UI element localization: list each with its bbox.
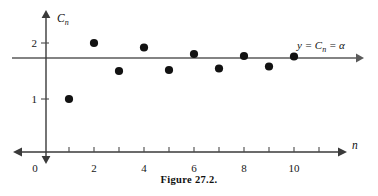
x-tick-label-8: 8: [241, 162, 247, 174]
y-axis-label-sub: n: [65, 18, 69, 27]
x-tick-label-4: 4: [141, 162, 147, 174]
data-point: [115, 67, 123, 75]
x-tick-label-6: 6: [191, 162, 197, 174]
y-axis-label: Cn: [57, 12, 69, 27]
asymptote-label: y = Cn = α: [296, 39, 345, 54]
asymptote-label-tail: = α: [326, 39, 345, 51]
figure-caption: Figure 27.2.: [0, 174, 378, 185]
x-axis-label: n: [352, 139, 358, 151]
data-point: [140, 43, 148, 51]
asymptote-label-head: y = C: [296, 39, 323, 51]
x-axis-arrow-icon: [338, 148, 347, 157]
x-axis-ticks: [69, 147, 319, 152]
y-tick-label-2: 2: [32, 37, 38, 49]
data-point: [265, 62, 273, 70]
asymptote-arrow-icon: [356, 54, 364, 63]
data-points: [65, 39, 298, 103]
x-tick-label-2: 2: [91, 162, 97, 174]
data-point: [215, 64, 223, 72]
data-point: [165, 66, 173, 74]
y-tick-label-1: 1: [32, 93, 38, 105]
y-axis-arrow-icon: [42, 10, 51, 18]
y-axis-down-arrow-icon: [42, 156, 51, 164]
data-point: [240, 52, 248, 60]
figure-container: 2 4 6 8 10 0 2 1 Cn n y = Cn = α Figure …: [0, 0, 378, 196]
data-point: [90, 39, 98, 47]
data-point: [65, 95, 73, 103]
data-point: [290, 52, 298, 60]
scatter-plot: 2 4 6 8 10 0 2 1 Cn n y = Cn = α: [0, 0, 378, 196]
origin-label: 0: [32, 162, 38, 174]
x-tick-label-10: 10: [289, 162, 301, 174]
y-axis-ticks: [41, 43, 49, 99]
data-point: [190, 50, 198, 58]
x-axis-left-arrow-icon: [13, 148, 22, 157]
